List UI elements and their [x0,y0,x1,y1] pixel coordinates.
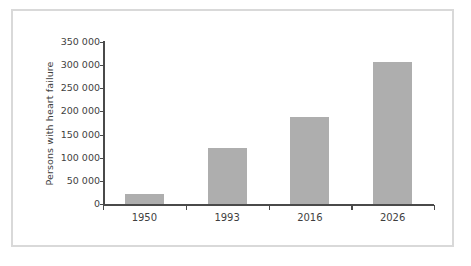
bar-2016 [290,117,329,204]
x-axis-tick-label-2016: 2016 [269,212,351,223]
x-axis-tick-mark [186,205,187,210]
y-axis-tick-label: 200 000 [42,105,100,117]
x-axis-tick-mark [269,205,270,210]
x-axis-tick-mark [103,205,104,210]
bar-2026 [373,62,412,204]
y-axis-tick-text: 0 [42,198,100,209]
x-axis-tick-mark [351,205,352,210]
x-axis-tick-mark [434,205,435,210]
y-axis-tick-label: 150 000 [42,129,100,141]
bar-1993 [208,148,247,204]
y-axis-tick-text: 150 000 [42,129,100,140]
y-axis-line [103,41,105,205]
bar-1950 [125,194,164,204]
y-axis-tick-label: 250 000 [42,82,100,94]
y-axis-tick-label: 300 000 [42,59,100,71]
y-axis-tick-text: 100 000 [42,152,100,163]
x-axis-tick-label-1950: 1950 [103,212,185,223]
bar-chart-plot: Persons with heart failure 050 000100 00… [0,0,471,266]
y-axis-tick-label: 0 [42,198,100,210]
chart-figure: Persons with heart failure 050 000100 00… [0,0,471,266]
y-axis-tick-text: 200 000 [42,105,100,116]
y-axis-tick-text: 350 000 [42,36,100,47]
x-axis-tick-label-1993: 1993 [186,212,268,223]
y-axis-tick-label: 50 000 [42,175,100,187]
y-axis-tick-text: 300 000 [42,59,100,70]
x-axis-tick-label-2026: 2026 [352,212,434,223]
y-axis-tick-text: 250 000 [42,82,100,93]
y-axis-tick-label: 100 000 [42,152,100,164]
y-axis-tick-text: 50 000 [42,175,100,186]
y-axis-tick-label: 350 000 [42,36,100,48]
